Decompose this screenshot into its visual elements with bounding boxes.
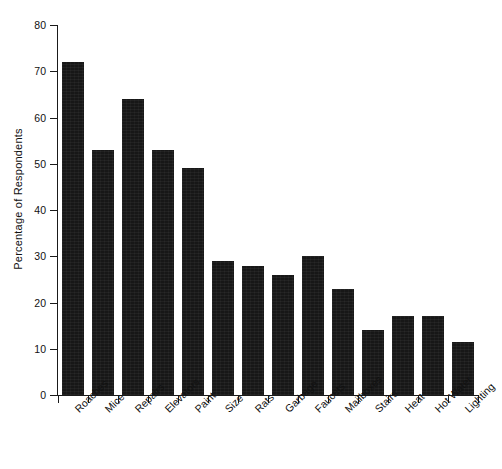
bar	[152, 150, 174, 395]
y-tick-mark	[50, 256, 57, 257]
bar	[212, 261, 234, 395]
y-tick-mark	[50, 303, 57, 304]
bar	[242, 266, 264, 396]
y-tick-label: 10	[20, 344, 46, 354]
bar-chart: Percentage of Respondents 01020304050607…	[0, 0, 502, 469]
y-tick-mark	[50, 395, 57, 396]
bar	[122, 99, 144, 395]
y-tick-mark	[50, 71, 57, 72]
y-tick-mark	[50, 349, 57, 350]
bar	[182, 168, 204, 395]
y-tick-label: 80	[20, 20, 46, 30]
bar	[302, 256, 324, 395]
y-tick-mark	[50, 210, 57, 211]
y-tick-label: 0	[20, 390, 46, 400]
y-tick-label: 70	[20, 66, 46, 76]
bar	[92, 150, 114, 395]
y-tick-mark	[50, 164, 57, 165]
y-tick-label: 60	[20, 113, 46, 123]
x-tick-mark	[58, 396, 59, 403]
y-tick-label: 50	[20, 159, 46, 169]
bar	[272, 275, 294, 395]
y-tick-label: 30	[20, 251, 46, 261]
y-axis-line	[57, 25, 58, 396]
bar	[332, 289, 354, 395]
bar	[422, 316, 444, 395]
bar	[62, 62, 84, 395]
plot-area: 01020304050607080 RoachesMiceRepairsElev…	[0, 0, 502, 469]
y-tick-label: 40	[20, 205, 46, 215]
y-tick-mark	[50, 118, 57, 119]
y-tick-label: 20	[20, 298, 46, 308]
bar	[392, 316, 414, 395]
y-tick-mark	[50, 25, 57, 26]
